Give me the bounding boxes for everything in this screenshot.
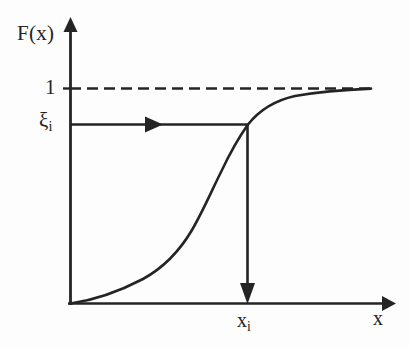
level-label-subscript: i: [48, 118, 52, 134]
abscissa-label-x-i: xi: [237, 310, 251, 333]
vertical-ray-arrowhead-icon: [240, 283, 255, 304]
y-axis: [64, 17, 78, 305]
figure-canvas: [0, 0, 409, 347]
cdf-curve: [71, 89, 372, 304]
horizontal-sample-ray: [70, 117, 248, 133]
y-axis-label: F(x): [17, 23, 54, 44]
cdf-figure: F(x) 1 ξi xi x: [0, 0, 409, 347]
y-tick-label-one: 1: [45, 77, 56, 98]
horizontal-ray-arrowhead-icon: [145, 117, 163, 133]
level-label-xi-i: ξi: [39, 110, 52, 133]
x-axis-arrowhead-icon: [382, 296, 396, 311]
y-axis-arrowhead-icon: [64, 17, 78, 32]
x-axis: [68, 296, 396, 311]
vertical-sample-ray: [240, 125, 255, 305]
level-label-base: ξ: [39, 108, 48, 132]
abscissa-label-base: x: [237, 309, 247, 331]
x-axis-label: x: [373, 308, 383, 328]
abscissa-label-subscript: i: [247, 319, 251, 334]
